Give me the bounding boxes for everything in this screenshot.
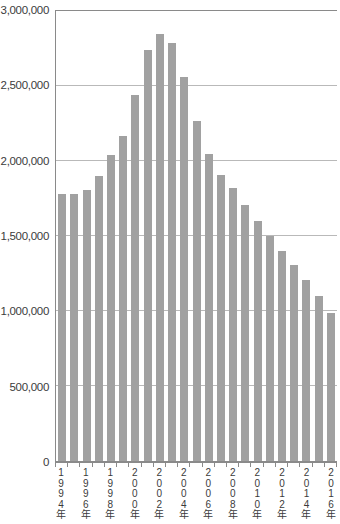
x-tick [153, 461, 154, 467]
x-tick [55, 461, 56, 467]
x-label-char: 2 [154, 468, 164, 479]
x-label-slot-2015 [313, 468, 325, 521]
x-label-slot-1999 [116, 468, 128, 521]
x-label-char: 0 [228, 489, 238, 500]
x-label-char: 2 [179, 468, 189, 479]
x-label-char: 1 [301, 489, 311, 500]
x-label-slot-1995 [67, 468, 79, 521]
x-tick [79, 461, 80, 467]
x-label-char: 1 [81, 468, 91, 479]
x-tick [299, 461, 300, 467]
x-tick [141, 461, 142, 467]
x-tick [336, 461, 337, 467]
x-axis-labels: 1994年1996年1998年2000年2002年2004年2006年2008年… [55, 468, 337, 521]
x-label-char: 年 [326, 510, 336, 521]
x-label-slot-2004: 2004年 [178, 468, 190, 521]
x-label-slot-1996: 1996年 [80, 468, 92, 521]
x-label-char: 1 [252, 489, 262, 500]
x-label-slot-2009 [239, 468, 251, 521]
x-label-slot-2001 [141, 468, 153, 521]
x-tick [324, 461, 325, 467]
x-label-char: 2 [326, 468, 336, 479]
x-label-slot-1997 [92, 468, 104, 521]
x-label-slot-2003 [165, 468, 177, 521]
x-tick [214, 461, 215, 467]
x-tick-label-2004: 2004年 [179, 468, 189, 521]
x-tick [177, 461, 178, 467]
x-tick [189, 461, 190, 467]
x-tick [202, 461, 203, 467]
x-tick-label-2006: 2006年 [203, 468, 213, 521]
x-tick [263, 461, 264, 467]
x-tick [67, 461, 68, 467]
x-axis-ticks [56, 11, 337, 461]
x-label-char: 9 [56, 489, 66, 500]
x-label-char: 年 [56, 510, 66, 521]
x-label-char: 年 [81, 510, 91, 521]
x-tick [275, 461, 276, 467]
x-tick [104, 461, 105, 467]
x-label-slot-2008: 2008年 [227, 468, 239, 521]
x-tick-label-1998: 1998年 [105, 468, 115, 521]
x-label-char: 年 [252, 510, 262, 521]
x-label-slot-2005 [190, 468, 202, 521]
x-tick [287, 461, 288, 467]
x-label-char: 年 [228, 510, 238, 521]
x-tick-label-2000: 2000年 [130, 468, 140, 521]
y-tick-label-500,000: 500,000 [0, 380, 49, 394]
x-label-char: 1 [326, 489, 336, 500]
y-tick-label-2,500,000: 2,500,000 [0, 78, 49, 92]
x-label-slot-2012: 2012年 [276, 468, 288, 521]
y-tick-label-3,000,000: 3,000,000 [0, 3, 49, 17]
plot-area [55, 10, 337, 463]
y-tick-label-1,000,000: 1,000,000 [0, 304, 49, 318]
x-label-char: 2 [277, 468, 287, 479]
y-tick-label-2,000,000: 2,000,000 [0, 154, 49, 168]
x-label-slot-2007 [214, 468, 226, 521]
x-label-char: 9 [81, 489, 91, 500]
y-tick-label-0: 0 [0, 455, 49, 469]
annual-bar-chart: 0500,0001,000,0001,500,0002,000,0002,500… [0, 0, 340, 524]
x-label-char: 年 [203, 510, 213, 521]
x-tick-label-2008: 2008年 [228, 468, 238, 521]
y-tick-label-1,500,000: 1,500,000 [0, 229, 49, 243]
x-label-char: 2 [252, 468, 262, 479]
x-label-char: 1 [277, 489, 287, 500]
x-tick [312, 461, 313, 467]
x-label-slot-1998: 1998年 [104, 468, 116, 521]
x-label-char: 2 [228, 468, 238, 479]
x-label-slot-2016: 2016年 [325, 468, 337, 521]
x-label-char: 年 [105, 510, 115, 521]
y-axis-labels: 0500,0001,000,0001,500,0002,000,0002,500… [0, 0, 51, 524]
x-label-char: 年 [301, 510, 311, 521]
x-tick-label-2010: 2010年 [252, 468, 262, 521]
x-tick-label-2012: 2012年 [277, 468, 287, 521]
x-label-slot-2013 [288, 468, 300, 521]
x-tick [238, 461, 239, 467]
x-tick-label-2002: 2002年 [154, 468, 164, 521]
x-tick [116, 461, 117, 467]
x-label-char: 1 [105, 468, 115, 479]
x-label-char: 0 [154, 489, 164, 500]
x-label-char: 年 [179, 510, 189, 521]
x-label-slot-2014: 2014年 [300, 468, 312, 521]
x-label-slot-2011 [264, 468, 276, 521]
x-label-slot-2010: 2010年 [251, 468, 263, 521]
x-label-char: 0 [203, 489, 213, 500]
x-tick-label-2016: 2016年 [326, 468, 336, 521]
x-label-char: 年 [277, 510, 287, 521]
x-label-char: 2 [130, 468, 140, 479]
x-label-slot-2002: 2002年 [153, 468, 165, 521]
x-tick [226, 461, 227, 467]
x-label-char: 0 [130, 489, 140, 500]
x-label-char: 9 [105, 489, 115, 500]
x-tick [128, 461, 129, 467]
x-label-char: 2 [301, 468, 311, 479]
x-label-char: 年 [154, 510, 164, 521]
x-tick [250, 461, 251, 467]
x-label-slot-2006: 2006年 [202, 468, 214, 521]
x-tick [92, 461, 93, 467]
x-tick-label-1994: 1994年 [56, 468, 66, 521]
x-label-slot-1994: 1994年 [55, 468, 67, 521]
x-label-char: 年 [130, 510, 140, 521]
